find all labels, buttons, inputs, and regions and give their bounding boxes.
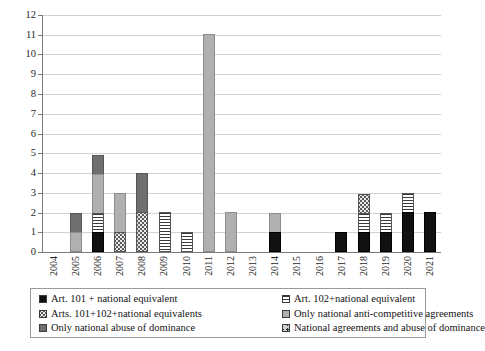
bar-slot [330, 15, 352, 252]
bar-segment [159, 212, 171, 252]
y-axis-tick-label: 12 [26, 10, 37, 21]
bar-slot [154, 15, 176, 252]
bar-stack[interactable] [92, 156, 104, 252]
bar-stack[interactable] [159, 213, 171, 252]
legend-item[interactable]: Arts. 101+102+national equivalents [39, 309, 282, 320]
y-axis-tick-label: 5 [31, 148, 36, 159]
bar-segment [358, 232, 370, 252]
bar-slot [65, 15, 87, 252]
bar-segment [358, 194, 370, 214]
bar-slot [419, 15, 441, 252]
bar-segment [424, 212, 436, 252]
legend-swatch-icon [39, 295, 47, 303]
legend-label: Art. 102+national equivalent [294, 294, 415, 305]
legend-label: National agreements and abuse of dominan… [294, 323, 485, 334]
plot-area: 0123456789101112 [42, 15, 441, 253]
bar-segment [225, 212, 237, 252]
x-axis-tick-label: 2014 [270, 256, 280, 276]
x-axis-tick-label: 2009 [159, 256, 169, 276]
y-axis-tick-label: 11 [26, 29, 36, 40]
bar-stack[interactable] [269, 214, 281, 252]
x-axis-tick-label: 2017 [337, 256, 347, 276]
x-axis-tick-label: 2020 [403, 256, 413, 276]
legend-label: Only national anti-competitive agreement… [294, 309, 473, 320]
bar-slot [87, 15, 109, 252]
bar-slot [353, 15, 375, 252]
x-axis-tick-label: 2012 [226, 256, 236, 276]
y-axis-tick-label: 0 [31, 247, 36, 258]
legend-items-group: Art. 101 + national equivalentArt. 102+n… [39, 292, 419, 336]
bar-segment [70, 213, 82, 233]
bar-segment [380, 232, 392, 252]
x-axis-tick-label: 2006 [93, 256, 103, 276]
bar-slot [242, 15, 264, 252]
legend-label: Art. 101 + national equivalent [51, 294, 177, 305]
bar-slot [109, 15, 131, 252]
bar-stack[interactable] [402, 194, 414, 252]
x-axis-tick-label: 2011 [204, 256, 214, 276]
x-axis-tick-label: 2018 [359, 256, 369, 276]
x-axis-tick-label: 2008 [137, 256, 147, 276]
legend-item[interactable]: Art. 102+national equivalent [282, 294, 485, 305]
bar-segment [181, 232, 193, 252]
legend-swatch-icon [282, 310, 290, 318]
bar-segment [358, 213, 370, 233]
y-axis-tick-label: 2 [31, 207, 36, 218]
x-axis-tick-label: 2004 [49, 256, 59, 276]
x-axis-tick-label: 2019 [381, 256, 391, 276]
bar-segment [335, 232, 347, 252]
legend-swatch-icon [282, 295, 290, 303]
bar-segment [402, 212, 414, 252]
legend-item[interactable]: Only national anti-competitive agreement… [282, 309, 485, 320]
legend-item[interactable]: National agreements and abuse of dominan… [282, 323, 485, 334]
legend-swatch-icon [39, 324, 47, 332]
bar-segment [203, 34, 215, 252]
legend-item[interactable]: Only national abuse of dominance [39, 323, 282, 334]
bar-slot [264, 15, 286, 252]
bar-segment [402, 193, 414, 213]
y-axis-tick-label: 6 [31, 128, 36, 139]
bar-stack[interactable] [181, 233, 193, 252]
x-axis-tick-label: 2021 [425, 256, 435, 276]
bar-stack[interactable] [424, 213, 436, 252]
bar-segment [92, 174, 104, 214]
y-axis-tick-label: 4 [31, 168, 36, 179]
bar-segment [380, 213, 392, 233]
bar-segment [269, 232, 281, 252]
legend-swatch-icon [39, 310, 47, 318]
x-axis-tick-label: 2005 [71, 256, 81, 276]
bar-stack[interactable] [225, 213, 237, 252]
y-axis-tick-label: 8 [31, 89, 36, 100]
bar-stack[interactable] [358, 195, 370, 252]
y-axis-tick-label: 3 [31, 188, 36, 199]
bar-stack[interactable] [114, 194, 126, 252]
bar-segment [136, 173, 148, 213]
bar-stack[interactable] [136, 174, 148, 252]
bar-segment [114, 232, 126, 252]
legend-label: Only national abuse of dominance [51, 323, 195, 334]
bar-slot [176, 15, 198, 252]
legend-item[interactable]: Art. 101 + national equivalent [39, 294, 282, 305]
bar-slot [198, 15, 220, 252]
bar-stack[interactable] [203, 35, 215, 252]
x-axis-tick-label: 2013 [248, 256, 258, 276]
bar-segment [92, 155, 104, 175]
x-axis-tick-label: 2010 [182, 256, 192, 276]
bar-segment [269, 213, 281, 233]
bar-stack[interactable] [335, 233, 347, 252]
bar-stack[interactable] [380, 214, 392, 252]
chart-legend: Art. 101 + national equivalentArt. 102+n… [30, 288, 426, 338]
bar-slot [131, 15, 153, 252]
bar-slot [397, 15, 419, 252]
bar-segment [70, 232, 82, 252]
bar-stack[interactable] [70, 214, 82, 252]
bars-group [43, 15, 441, 252]
x-axis-tick-label: 2015 [292, 256, 302, 276]
x-axis-tick-label: 2016 [315, 256, 325, 276]
legend-swatch-icon [282, 324, 290, 332]
y-axis-tick-label: 10 [26, 49, 37, 60]
x-axis-tick-label: 2007 [115, 256, 125, 276]
bar-segment [114, 193, 126, 233]
bar-segment [92, 232, 104, 252]
